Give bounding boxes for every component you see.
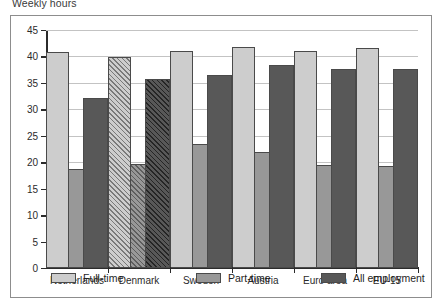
bar[interactable] — [294, 51, 317, 268]
bar[interactable] — [393, 69, 418, 268]
plot-area: 051015202530354045 — [46, 30, 418, 268]
chart-legend: Full-timePart-timeAll employment — [11, 269, 433, 299]
legend-swatch — [51, 273, 76, 283]
bar[interactable] — [130, 164, 146, 268]
bar[interactable] — [145, 79, 170, 268]
y-axis-tick-label: 25 — [27, 130, 38, 141]
plot-wrapper: 051015202530354045 NetherlandsDenmarkSwe… — [11, 16, 433, 299]
y-axis-tick-label: 20 — [27, 157, 38, 168]
bar[interactable] — [46, 52, 69, 268]
bar[interactable] — [192, 144, 208, 268]
y-axis-tick-label: 30 — [27, 104, 38, 115]
y-axis-tick-label: 15 — [27, 183, 38, 194]
bar-group — [294, 30, 356, 268]
bar-group — [108, 30, 170, 268]
page-title: Weekly hours — [12, 0, 77, 9]
legend-label: All employment — [353, 272, 425, 284]
bar[interactable] — [378, 166, 394, 268]
legend-swatch — [196, 273, 221, 283]
y-axis-tick-label: 45 — [27, 25, 38, 36]
y-axis-tick-label: 35 — [27, 77, 38, 88]
bar-group — [232, 30, 294, 268]
y-axis-tick-label: 10 — [27, 210, 38, 221]
legend-item[interactable]: All employment — [321, 272, 425, 284]
bar[interactable] — [331, 69, 356, 268]
legend-label: Part-time — [228, 272, 271, 284]
legend-item[interactable]: Part-time — [196, 272, 271, 284]
bars-layer — [46, 30, 418, 268]
bar-group — [356, 30, 418, 268]
bar[interactable] — [254, 152, 270, 268]
legend-item[interactable]: Full-time — [51, 272, 123, 284]
bar[interactable] — [108, 57, 131, 268]
figure-frame: 051015202530354045 NetherlandsDenmarkSwe… — [10, 15, 432, 298]
y-axis-tick-label: 5 — [32, 236, 38, 247]
bar[interactable] — [207, 75, 232, 268]
bar[interactable] — [68, 169, 84, 268]
bar[interactable] — [170, 51, 193, 268]
bar-group — [170, 30, 232, 268]
bar-group — [46, 30, 108, 268]
bar[interactable] — [269, 65, 294, 268]
legend-swatch — [321, 273, 346, 283]
legend-label: Full-time — [83, 272, 123, 284]
bar[interactable] — [83, 98, 108, 268]
bar[interactable] — [232, 47, 255, 268]
bar[interactable] — [316, 165, 332, 268]
y-axis-tick-label: 40 — [27, 51, 38, 62]
bar[interactable] — [356, 48, 379, 268]
